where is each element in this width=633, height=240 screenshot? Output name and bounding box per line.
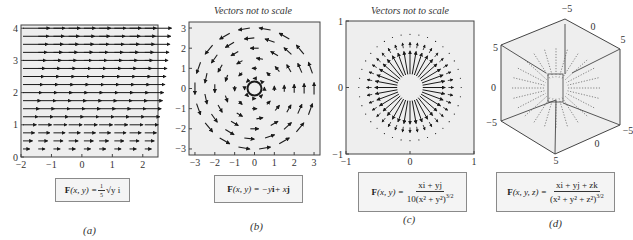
svg-text:1: 1 xyxy=(181,63,186,74)
plot-a-uniform-horizontal-field: −2−101201234 xyxy=(13,23,172,170)
svg-text:−1: −1 xyxy=(229,157,240,168)
panel-label-b: (b) xyxy=(250,220,263,232)
svg-text:0: 0 xyxy=(13,152,18,163)
svg-text:1: 1 xyxy=(272,157,277,168)
formula-box-c: F(x, y) = xi + yj10(x² + y²)3/2 xyxy=(358,172,467,212)
formula-box-d: F(x, y, z) = xi + yj + zk(x² + y² + z²)3… xyxy=(496,172,615,212)
plot-d-3d-radial-field: −50550−5−505 xyxy=(486,3,633,166)
svg-text:−2: −2 xyxy=(209,157,220,168)
plot-b-caption: Vectors not to scale xyxy=(214,5,292,16)
svg-text:2: 2 xyxy=(292,157,297,168)
panel-label-d: (d) xyxy=(549,217,562,229)
svg-text:3: 3 xyxy=(181,23,186,34)
svg-text:−5: −5 xyxy=(486,117,497,128)
svg-text:5: 5 xyxy=(493,42,498,53)
svg-text:5: 5 xyxy=(621,34,626,45)
svg-text:0: 0 xyxy=(181,83,186,94)
svg-text:0: 0 xyxy=(79,159,84,170)
plot-c-caption: Vectors not to scale xyxy=(371,5,449,16)
svg-text:2: 2 xyxy=(181,43,186,54)
svg-text:0: 0 xyxy=(338,82,343,93)
svg-text:3: 3 xyxy=(312,157,317,168)
svg-text:5: 5 xyxy=(554,155,559,166)
svg-text:−3: −3 xyxy=(175,143,186,154)
svg-text:1: 1 xyxy=(13,119,18,130)
svg-text:0: 0 xyxy=(408,156,413,167)
svg-text:−5: −5 xyxy=(562,3,573,14)
formula-box-b: F(x, y) = −yi + xj xyxy=(214,175,303,203)
svg-text:1: 1 xyxy=(338,16,343,27)
svg-text:4: 4 xyxy=(13,23,18,34)
svg-text:0: 0 xyxy=(252,157,257,168)
svg-text:−1: −1 xyxy=(332,149,343,160)
plot-b-rotational-field: −3−2−10123−3−2−10123 xyxy=(175,22,320,168)
svg-text:−2: −2 xyxy=(175,123,186,134)
panel-label-a: (a) xyxy=(83,224,96,236)
svg-text:−1: −1 xyxy=(46,159,57,170)
plot-c-radial-field: −101−101 xyxy=(332,16,476,168)
svg-text:−1: −1 xyxy=(175,103,186,114)
svg-text:0: 0 xyxy=(491,82,496,93)
svg-text:2: 2 xyxy=(13,87,18,98)
panel-label-c: (c) xyxy=(403,213,415,225)
svg-text:3: 3 xyxy=(13,55,18,66)
svg-text:−5: −5 xyxy=(623,125,633,136)
svg-text:2: 2 xyxy=(140,159,145,170)
svg-text:1: 1 xyxy=(472,156,477,167)
formula-box-a: F(x, y) = 15 √y i xyxy=(55,178,130,202)
svg-text:0: 0 xyxy=(595,138,600,149)
svg-text:1: 1 xyxy=(110,159,115,170)
svg-text:−3: −3 xyxy=(190,157,201,168)
svg-text:0: 0 xyxy=(591,21,596,32)
